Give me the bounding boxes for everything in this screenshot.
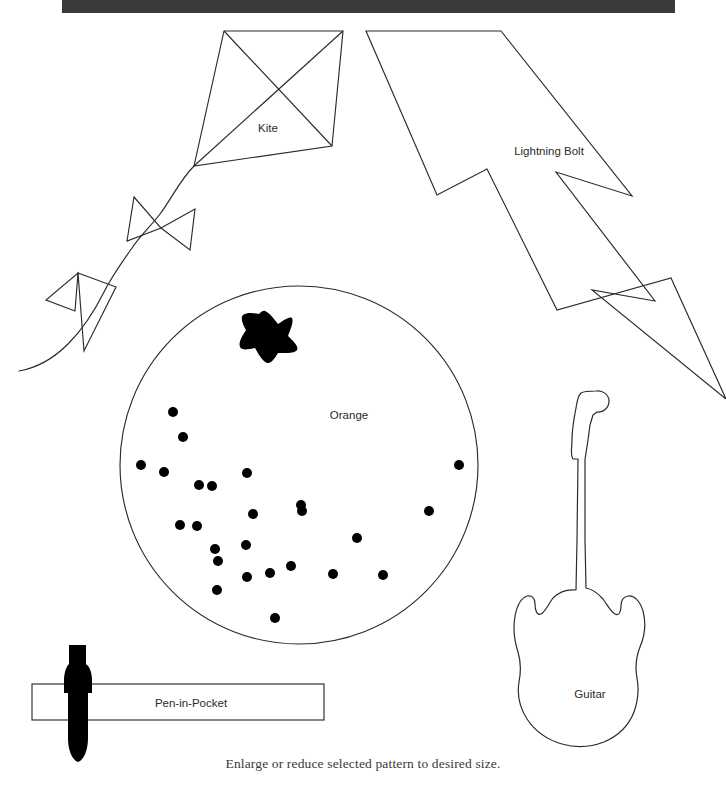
- orange-seed: [242, 572, 252, 582]
- orange-seed: [270, 613, 280, 623]
- sheet-caption: Enlarge or reduce selected pattern to de…: [0, 756, 726, 772]
- kite-tail-string: [19, 166, 194, 371]
- kite-tail-bow-upper-right: [161, 209, 195, 250]
- orange-seed: [454, 460, 464, 470]
- patterns-canvas: Kite Lightning Bolt: [0, 0, 726, 793]
- orange-seed: [175, 520, 185, 530]
- pattern-kite[interactable]: Kite: [19, 31, 343, 371]
- orange-seed: [159, 467, 169, 477]
- orange-star: [240, 311, 298, 363]
- orange-seed: [378, 570, 388, 580]
- orange-seed: [192, 521, 202, 531]
- orange-seed: [210, 544, 220, 554]
- orange-outline[interactable]: [120, 286, 478, 644]
- orange-seed: [424, 506, 434, 516]
- guitar-label: Guitar: [574, 688, 605, 700]
- orange-seed: [241, 540, 251, 550]
- orange-seed: [212, 585, 222, 595]
- orange-seed: [297, 506, 307, 516]
- lightning-bolt-outline[interactable]: [366, 31, 726, 399]
- pen-shape: [64, 645, 92, 762]
- pattern-guitar[interactable]: Guitar: [514, 391, 645, 747]
- orange-seed: [194, 480, 204, 490]
- orange-seed: [207, 481, 217, 491]
- orange-seed: [178, 432, 188, 442]
- kite-label: Kite: [258, 122, 278, 134]
- lightning-bolt-label: Lightning Bolt: [514, 145, 584, 157]
- orange-seed: [328, 569, 338, 579]
- kite-tail-bow-lower-right: [78, 273, 116, 351]
- orange-seed: [168, 407, 178, 417]
- orange-seed: [136, 460, 146, 470]
- kite-strut-left: [224, 31, 332, 146]
- pattern-pen-in-pocket[interactable]: Pen-in-Pocket: [32, 645, 324, 762]
- kite-strut-right: [194, 31, 343, 166]
- orange-seed: [352, 533, 362, 543]
- orange-seed: [286, 561, 296, 571]
- pattern-orange[interactable]: Orange: [120, 286, 478, 644]
- orange-seed: [213, 556, 223, 566]
- pen-in-pocket-label: Pen-in-Pocket: [155, 697, 228, 709]
- pattern-sheet-page: Kite Lightning Bolt: [0, 0, 726, 793]
- orange-label: Orange: [330, 409, 368, 421]
- orange-seed: [265, 568, 275, 578]
- pattern-lightning-bolt[interactable]: Lightning Bolt: [366, 31, 726, 399]
- orange-seed: [242, 468, 252, 478]
- kite-tail-bow-lower-left: [46, 273, 78, 311]
- orange-seed: [248, 509, 258, 519]
